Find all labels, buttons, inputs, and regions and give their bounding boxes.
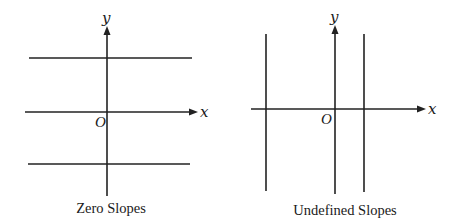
x-axis xyxy=(25,109,198,116)
undefined-slopes-panel: y x O Undefined Slopes xyxy=(251,8,437,218)
y-axis-label: y xyxy=(101,9,111,27)
panel-caption: Zero Slopes xyxy=(76,200,146,216)
y-axis-label: y xyxy=(329,8,339,26)
zero-slopes-panel: y x O Zero Slopes xyxy=(25,9,209,216)
y-axis-arrow-icon xyxy=(332,25,339,34)
x-axis-arrow-icon xyxy=(189,109,198,116)
y-axis xyxy=(104,26,111,196)
panel-caption: Undefined Slopes xyxy=(293,202,397,218)
x-axis-arrow-icon xyxy=(417,106,426,113)
slopes-diagram: y x O Zero Slopes y x xyxy=(0,0,451,223)
x-axis-label: x xyxy=(428,100,437,118)
x-axis xyxy=(251,106,426,113)
origin-label: O xyxy=(321,111,332,127)
origin-label: O xyxy=(95,114,106,130)
y-axis-arrow-icon xyxy=(104,26,111,35)
x-axis-label: x xyxy=(200,103,209,121)
